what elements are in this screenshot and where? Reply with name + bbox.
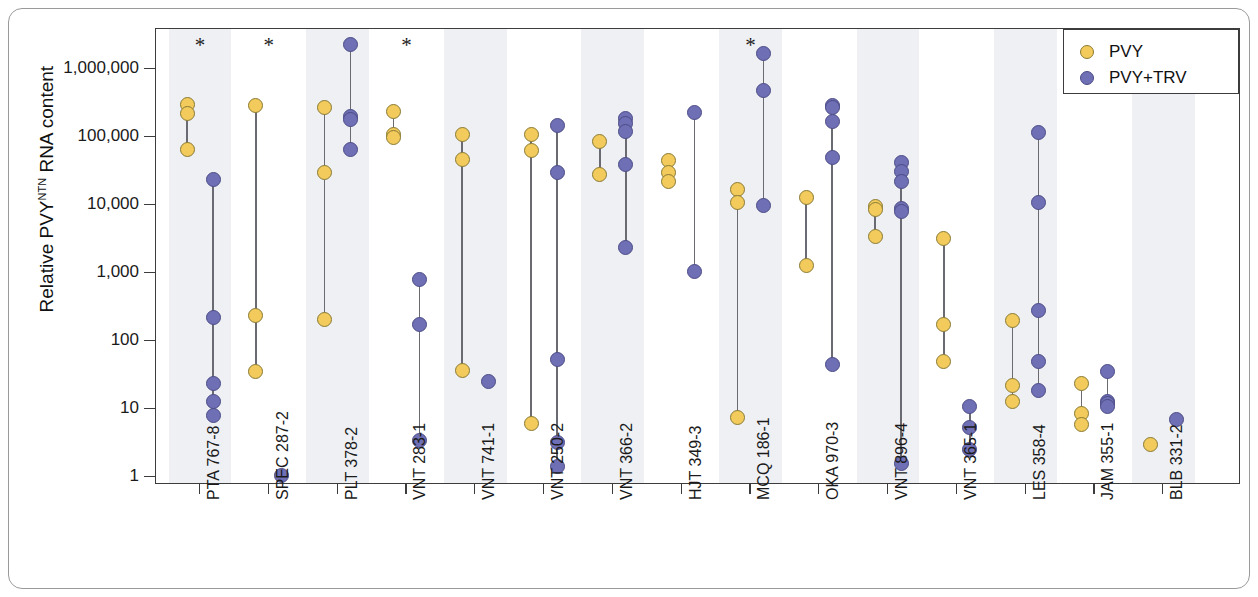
data-point-pvy-trv [481, 374, 496, 389]
x-axis-tick-label-vnt-741-1: VNT 741-1 [480, 423, 498, 500]
data-point-pvy [455, 152, 470, 167]
y-axis-tick-mark [144, 408, 155, 409]
data-point-pvy-trv [894, 204, 909, 219]
significance-asterisk: * [401, 35, 412, 56]
data-point-pvy-trv [825, 150, 840, 165]
data-point-pvy-trv [1100, 364, 1115, 379]
figure-container: Relative PVYNTN RNA content 1,000,000100… [0, 0, 1258, 597]
x-axis-tick-mark [1025, 484, 1026, 494]
data-point-pvy [592, 134, 607, 149]
data-point-pvy [180, 106, 195, 121]
range-connector-line [324, 108, 326, 319]
x-axis-tick-mark [1162, 484, 1163, 494]
data-point-pvy [799, 190, 814, 205]
data-point-pvy-trv [206, 310, 221, 325]
data-point-pvy [1074, 417, 1089, 432]
data-points-layer: **** [156, 29, 1239, 483]
data-point-pvy-trv [962, 399, 977, 414]
range-connector-line [805, 197, 807, 265]
data-point-pvy [936, 317, 951, 332]
data-point-pvy-trv [1031, 195, 1046, 210]
data-point-pvy [455, 363, 470, 378]
data-point-pvy [936, 354, 951, 369]
data-point-pvy [868, 202, 883, 217]
data-point-pvy [524, 416, 539, 431]
data-point-pvy [868, 229, 883, 244]
data-point-pvy-trv [825, 357, 840, 372]
data-point-pvy [386, 130, 401, 145]
data-point-pvy-trv [687, 264, 702, 279]
data-point-pvy [730, 410, 745, 425]
y-axis-tick-mark [144, 476, 155, 477]
x-axis-tick-label-vnt-896-4: VNT 896-4 [893, 423, 911, 500]
x-axis-tick-mark [405, 484, 406, 494]
x-axis-tick-mark [543, 484, 544, 494]
x-axis-tick-label-spec-287-2: SPEC 287-2 [274, 411, 292, 500]
data-point-pvy [661, 174, 676, 189]
range-connector-line [419, 280, 421, 440]
x-axis-tick-mark [681, 484, 682, 494]
data-point-pvy [730, 195, 745, 210]
data-point-pvy-trv [618, 157, 633, 172]
data-point-pvy-trv [206, 172, 221, 187]
legend-item-pvy-trv: PVY+TRV [1080, 65, 1238, 91]
data-point-pvy [317, 165, 332, 180]
x-axis-tick-label-jam-355-1: JAM 355-1 [1099, 423, 1117, 500]
data-point-pvy-trv [1031, 354, 1046, 369]
data-point-pvy [386, 104, 401, 119]
data-point-pvy-trv [343, 142, 358, 157]
range-connector-line [831, 106, 833, 365]
x-axis-tick-label-vnt-365-1: VNT 365-1 [962, 423, 980, 500]
range-connector-line [461, 134, 463, 370]
y-axis-title: Relative PVYNTN RNA content [36, 24, 58, 354]
data-point-pvy-trv [756, 46, 771, 61]
x-axis-tick-label-vnt-283-1: VNT 283-1 [411, 423, 429, 500]
x-axis-tick-mark [956, 484, 957, 494]
y-axis-tick-label: 1,000 [96, 262, 139, 282]
data-point-pvy-trv [343, 112, 358, 127]
data-point-pvy [799, 258, 814, 273]
x-axis-tick-mark [474, 484, 475, 494]
data-point-pvy [1005, 394, 1020, 409]
y-axis-tick-mark [144, 340, 155, 341]
y-axis-title-superscript: NTN [36, 178, 48, 201]
data-point-pvy [524, 143, 539, 158]
data-point-pvy-trv [412, 317, 427, 332]
data-point-pvy-trv [206, 394, 221, 409]
y-axis-tick-label: 10 [120, 398, 139, 418]
x-axis-tick-mark [612, 484, 613, 494]
range-connector-line [255, 106, 257, 372]
y-axis-tick-label: 1 [130, 466, 139, 486]
data-point-pvy-trv [550, 352, 565, 367]
data-point-pvy [248, 308, 263, 323]
x-axis-tick-label-blb-331-2: BLB 331-2 [1168, 424, 1186, 500]
data-point-pvy-trv [343, 37, 358, 52]
data-point-pvy-trv [825, 100, 840, 115]
legend-label-pvy: PVY [1109, 42, 1143, 62]
legend-marker-pvy-trv-icon [1080, 71, 1094, 85]
significance-asterisk: * [745, 35, 756, 56]
data-point-pvy-trv [1100, 399, 1115, 414]
data-point-pvy [592, 167, 607, 182]
legend: PVY PVY+TRV [1063, 29, 1239, 94]
significance-asterisk: * [195, 35, 206, 56]
data-point-pvy-trv [1031, 303, 1046, 318]
legend-item-pvy: PVY [1080, 39, 1238, 65]
data-point-pvy [180, 142, 195, 157]
data-point-pvy-trv [894, 174, 909, 189]
y-axis-tick-label: 10,000 [87, 194, 139, 214]
x-axis-tick-label-mcq-186-1: MCQ 186-1 [755, 417, 773, 500]
x-axis-tick-mark [818, 484, 819, 494]
x-axis-tick-mark [337, 484, 338, 494]
data-point-pvy-trv [756, 83, 771, 98]
legend-label-pvy-trv: PVY+TRV [1109, 68, 1187, 88]
data-point-pvy [317, 312, 332, 327]
plot-area: **** [155, 28, 1240, 484]
x-axis-tick-label-oka-970-3: OKA 970-3 [824, 422, 842, 500]
data-point-pvy-trv [618, 240, 633, 255]
data-point-pvy [1005, 313, 1020, 328]
x-axis-tick-label-pta-767-8: PTA 767-8 [205, 426, 223, 500]
data-point-pvy [1143, 437, 1158, 452]
x-axis-tick-label-vnt-250-2: VNT 250-2 [549, 423, 567, 500]
y-axis-tick-mark [144, 136, 155, 137]
